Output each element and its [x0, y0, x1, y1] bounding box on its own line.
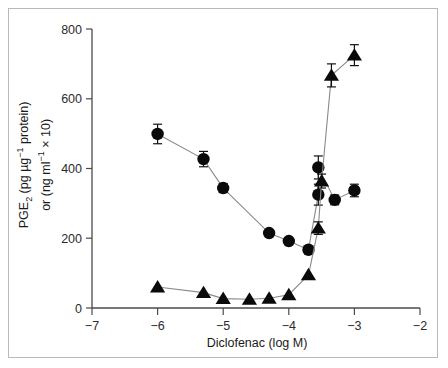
y-axis-title-sub2: 2 [24, 197, 34, 202]
figure-container: 0 200 400 600 800 −7 −6 −5 −4 −3 −2 PGE2… [0, 0, 448, 368]
x-axis-title: Diclofenac (log M) [92, 336, 422, 350]
data-point-circle [263, 227, 275, 239]
series-triangles [150, 45, 362, 305]
x-tick-label-minus7: −7 [85, 319, 99, 333]
data-point-circle [151, 128, 163, 140]
y-axis-title-sup-b: −1 [36, 151, 46, 161]
y-axis-title-units-a-tail: protein) [17, 102, 31, 148]
x-tick-label-minus5: −5 [216, 319, 230, 333]
data-point-circle [312, 188, 324, 200]
y-tick-label-0: 0 [75, 302, 82, 316]
data-point-triangle [314, 174, 329, 186]
x-tick-label-minus3: −3 [347, 319, 361, 333]
y-axis-title-sup-a: −1 [15, 147, 25, 157]
data-point-circle [217, 182, 229, 194]
y-axis-title-units-b: or (ng ml [38, 162, 52, 211]
y-tick-label-400: 400 [61, 162, 82, 176]
data-point-circle [329, 194, 341, 206]
data-point-triangle [216, 292, 231, 304]
data-point-circle [197, 153, 209, 165]
x-tick-label-minus2: −2 [413, 319, 427, 333]
chart-plot-area: 0 200 400 600 800 −7 −6 −5 −4 −3 −2 [0, 0, 448, 368]
series-connector-line [158, 55, 355, 299]
data-series-layer [150, 45, 362, 305]
y-tick-label-800: 800 [61, 23, 82, 37]
data-point-circle [283, 235, 295, 247]
data-point-triangle [301, 268, 316, 280]
x-tick-label-minus6: −6 [150, 319, 164, 333]
data-point-triangle [150, 280, 165, 292]
y-tick-label-200: 200 [61, 232, 82, 246]
data-point-circle [348, 184, 360, 196]
series-circles [151, 124, 360, 256]
y-axis-title: PGE2 (pg µg−1 protein) or (ng ml−1 × 10) [14, 0, 54, 330]
y-tick-label-600: 600 [61, 92, 82, 106]
y-axis-title-units-a: (pg µg [17, 158, 31, 197]
data-point-triangle [347, 48, 362, 60]
y-axis-title-units-b-tail: × 10) [38, 119, 52, 151]
y-axis-title-pge: PGE [17, 202, 31, 228]
x-tick-label-minus4: −4 [282, 319, 296, 333]
